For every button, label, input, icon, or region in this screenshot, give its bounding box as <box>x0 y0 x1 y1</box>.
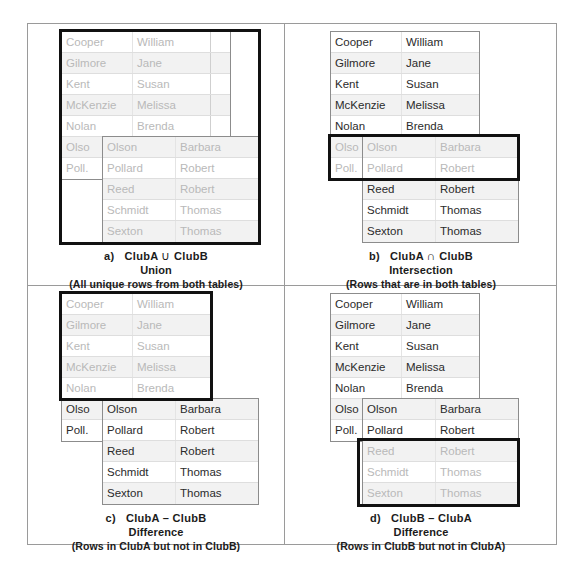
panel-c-caption: c) ClubA – ClubB Difference (Rows in Clu… <box>27 511 285 553</box>
table-row: ReedRobert <box>363 179 518 200</box>
table-row: GilmoreJane <box>62 53 230 74</box>
table-row: NolanBrenda <box>62 116 230 137</box>
table-row: KentSusan <box>62 74 230 95</box>
table-spacer-cell <box>210 95 230 115</box>
panel-b-caption-line1: b) ClubA ∩ ClubB <box>285 249 557 263</box>
minus-icon: – <box>428 512 434 524</box>
table-row: GilmoreJane <box>62 315 210 336</box>
table-row: PollardRobert <box>363 158 518 179</box>
table-spacer-cell <box>210 53 230 73</box>
table-row: OlsonBarbara <box>363 137 518 158</box>
table-row: GilmoreJane <box>331 53 479 74</box>
table-row: McKenzieMelissa <box>331 357 479 378</box>
table-row: OlsonBarbara <box>103 399 258 420</box>
panel-d-operand-left: ClubB <box>391 512 425 524</box>
panel-c-caption-line1: c) ClubA – ClubB <box>27 511 285 525</box>
table-row: SextonThomas <box>363 483 518 504</box>
table-spacer-cell <box>210 116 230 136</box>
panel-b-operand-left: ClubA <box>390 250 423 262</box>
table-row: KentSusan <box>331 336 479 357</box>
table-row: CooperWilliam <box>331 32 479 53</box>
panel-a-union: CooperWilliam GilmoreJane KentSusan McKe… <box>27 23 285 285</box>
panel-a-operand-right: ClubB <box>174 250 208 262</box>
panel-b-table-clubb: OlsonBarbara PollardRobert ReedRobert Sc… <box>362 136 519 243</box>
table-row: OlsonBarbara <box>103 137 258 158</box>
table-row: CooperWilliam <box>62 294 210 315</box>
minus-icon: – <box>163 512 169 524</box>
table-row: ReedRobert <box>363 441 518 462</box>
panel-c-description: (Rows in ClubA but not in ClubB) <box>27 539 285 553</box>
panel-c-operand-right: ClubB <box>173 512 207 524</box>
table-spacer-cell <box>210 32 230 52</box>
union-icon: ∪ <box>161 249 170 263</box>
table-row: CooperWilliam <box>331 294 479 315</box>
table-row: OlsonBarbara <box>363 399 518 420</box>
table-row: PollardRobert <box>363 420 518 441</box>
panel-d-operand-right: ClubA <box>438 512 472 524</box>
table-row: SchmidtThomas <box>103 200 258 221</box>
table-row: ReedRobert <box>103 441 258 462</box>
table-row: ReedRobert <box>103 179 258 200</box>
panel-a-marker: a) <box>104 250 114 262</box>
table-row: McKenzieMelissa <box>331 95 479 116</box>
table-row: GilmoreJane <box>331 315 479 336</box>
panel-b-operand-right: ClubB <box>439 250 473 262</box>
panel-c-difference-a-minus-b: CooperWilliam GilmoreJane KentSusan McKe… <box>27 285 285 545</box>
panel-a-operation: Union <box>27 263 285 277</box>
panel-d-caption: d) ClubB – ClubA Difference (Rows in Clu… <box>285 511 557 553</box>
panel-c-operation: Difference <box>27 525 285 539</box>
panel-a-caption-line1: a) ClubA ∪ ClubB <box>27 249 285 263</box>
panel-d-operation: Difference <box>285 525 557 539</box>
table-row: SextonThomas <box>363 221 518 242</box>
table-row: PollardRobert <box>103 158 258 179</box>
panel-b-intersection: CooperWilliam GilmoreJane KentSusan McKe… <box>285 23 557 285</box>
panel-b-operation: Intersection <box>285 263 557 277</box>
table-row: SchmidtThomas <box>363 462 518 483</box>
panel-b-marker: b) <box>369 250 380 262</box>
panel-d-caption-line1: d) ClubB – ClubA <box>285 511 557 525</box>
table-spacer-cell <box>210 74 230 94</box>
table-row: SextonThomas <box>103 221 258 242</box>
table-row: KentSusan <box>331 74 479 95</box>
panel-a-table-clubb: OlsonBarbara PollardRobert ReedRobert Sc… <box>102 136 259 243</box>
table-row: NolanBrenda <box>331 378 479 399</box>
table-row: NolanBrenda <box>331 116 479 137</box>
panel-a-operand-left: ClubA <box>125 250 158 262</box>
intersection-icon: ∩ <box>427 249 436 263</box>
table-row: KentSusan <box>62 336 210 357</box>
table-row: McKenzieMelissa <box>62 357 210 378</box>
panel-c-operand-left: ClubA <box>126 512 159 524</box>
panel-d-table-clubb: OlsonBarbara PollardRobert ReedRobert Sc… <box>362 398 519 505</box>
panel-c-marker: c) <box>106 512 116 524</box>
table-row: SchmidtThomas <box>363 200 518 221</box>
table-row: SchmidtThomas <box>103 462 258 483</box>
table-row: SextonThomas <box>103 483 258 504</box>
table-row: NolanBrenda <box>62 378 210 399</box>
panel-d-marker: d) <box>370 512 381 524</box>
table-row: CooperWilliam <box>62 32 230 53</box>
table-row: McKenzieMelissa <box>62 95 230 116</box>
panel-d-description: (Rows in ClubB but not in ClubA) <box>285 539 557 553</box>
figure-canvas: CooperWilliam GilmoreJane KentSusan McKe… <box>0 0 583 566</box>
panel-c-table-clubb: OlsonBarbara PollardRobert ReedRobert Sc… <box>102 398 259 505</box>
table-row: PollardRobert <box>103 420 258 441</box>
panel-d-difference-b-minus-a: CooperWilliam GilmoreJane KentSusan McKe… <box>285 285 557 545</box>
